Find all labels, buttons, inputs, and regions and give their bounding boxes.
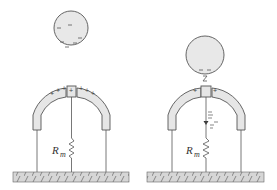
left-sphere — [54, 11, 88, 47]
resistor-label: R — [51, 144, 59, 156]
plus-charge: + — [69, 87, 73, 94]
right-panel: + + R m — [147, 36, 264, 182]
svg-text:+: + — [91, 90, 95, 97]
spark-icon — [203, 76, 207, 81]
ground — [13, 172, 129, 182]
ground — [147, 172, 264, 182]
svg-text:+: + — [62, 85, 66, 92]
svg-text:+: + — [85, 87, 89, 94]
svg-text:+: + — [79, 85, 83, 92]
resistor-label: R — [185, 144, 193, 156]
right-sphere — [186, 36, 224, 81]
resistor-icon — [203, 138, 209, 158]
svg-text:m: m — [194, 150, 200, 159]
diagram: + + + + + + + R m — [0, 0, 277, 190]
svg-text:m: m — [60, 150, 66, 159]
svg-text:+: + — [193, 87, 197, 94]
svg-text:+: + — [56, 87, 60, 94]
svg-text:+: + — [50, 90, 54, 97]
left-panel: + + + + + + + R m — [13, 11, 129, 182]
resistor-icon — [69, 138, 74, 158]
svg-text:+: + — [213, 87, 217, 94]
